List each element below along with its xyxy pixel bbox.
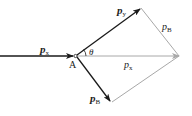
parallelogram-top-side — [141, 8, 179, 56]
py-label: py — [116, 4, 127, 18]
theta-angle-arc — [84, 50, 87, 57]
parallel-pB-label: pB — [161, 21, 172, 34]
resultant-px-label: px — [123, 59, 133, 72]
point-a-label: A — [69, 59, 77, 70]
momentum-diagram: px A θ py pB px pB — [0, 0, 192, 116]
py-vector — [77, 9, 140, 55]
parallelogram-bottom-side — [112, 56, 179, 102]
incoming-px-label: px — [39, 43, 50, 57]
point-a-marker — [74, 54, 77, 57]
pB-label: pB — [89, 92, 101, 106]
theta-label: θ — [89, 47, 94, 57]
